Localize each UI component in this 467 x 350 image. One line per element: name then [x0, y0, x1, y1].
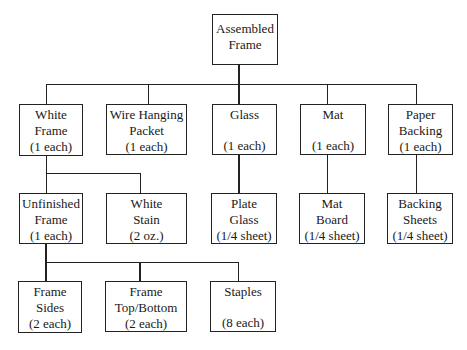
node-line: Assembled: [216, 21, 274, 37]
node-line: Packet: [129, 123, 164, 139]
node-line: Sheets: [403, 212, 437, 228]
node-quantity: (1 each): [30, 139, 72, 155]
connector-unfinished-frame-down: [45, 244, 47, 262]
node-line: Unfinished: [22, 196, 80, 212]
node-white-stain: White Stain (2 oz.): [106, 193, 187, 244]
node-line: Frame: [34, 212, 67, 228]
node-quantity: (1 each): [223, 138, 265, 154]
node-assembled-frame: Assembled Frame: [212, 14, 278, 65]
node-line: Mat: [322, 196, 343, 212]
connector-to-glass: [238, 84, 240, 104]
node-quantity: (2 each): [125, 316, 167, 332]
node-line: Board: [316, 212, 348, 228]
connector-mat-to-mat-board: [327, 155, 329, 193]
node-line: Backing: [399, 123, 442, 139]
node-line: White: [131, 196, 163, 212]
node-frame-sides: Frame Sides (2 each): [18, 281, 82, 333]
node-quantity: (8 each): [222, 315, 264, 331]
node-plate-glass: Plate Glass (1/4 sheet): [211, 193, 277, 244]
connector-to-frame-top-bottom: [139, 262, 141, 282]
connector-unfinished-frame-bus: [45, 262, 239, 264]
node-wire-hanging-packet: Wire Hanging Packet (1 each): [106, 104, 187, 155]
node-paper-backing: Paper Backing (1 each): [388, 104, 453, 155]
connector-level1-bus: [46, 84, 417, 86]
node-line: Glass: [230, 107, 259, 123]
node-line: Frame: [33, 284, 66, 300]
node-line: Sides: [36, 300, 64, 316]
connector-to-mat: [327, 84, 329, 104]
node-frame-top-bottom: Frame Top/Bottom (2 each): [105, 281, 187, 332]
connector-paper-backing-to-backing-sheets: [416, 155, 418, 193]
node-line: Paper: [406, 107, 436, 123]
node-line: Plate: [231, 196, 257, 212]
connector-to-unfinished-frame: [46, 173, 48, 193]
node-line: Frame: [34, 123, 67, 139]
connector-glass-to-plate-glass: [238, 155, 240, 193]
node-quantity: (1 each): [399, 139, 441, 155]
connector-to-paper-backing: [416, 84, 418, 104]
node-quantity: (1 each): [125, 139, 167, 155]
connector-root-down: [238, 64, 240, 84]
node-staples: Staples (8 each): [210, 281, 276, 332]
node-white-frame: White Frame (1 each): [19, 104, 83, 156]
node-unfinished-frame: Unfinished Frame (1 each): [19, 193, 83, 244]
node-quantity: (1/4 sheet): [304, 228, 359, 244]
node-quantity: (1/4 sheet): [392, 228, 447, 244]
node-line: Stain: [133, 212, 160, 228]
node-line: Mat: [323, 107, 344, 123]
node-glass: Glass (1 each): [212, 104, 277, 155]
node-backing-sheets: Backing Sheets (1/4 sheet): [387, 193, 453, 244]
node-line: Frame: [129, 284, 162, 300]
connector-white-frame-bus: [46, 173, 141, 175]
connector-to-frame-sides: [45, 262, 47, 282]
node-mat: Mat (1 each): [300, 104, 366, 155]
connector-white-frame-down: [46, 155, 48, 173]
node-quantity: (1/4 sheet): [216, 228, 271, 244]
connector-to-wire-hanging-packet: [148, 84, 150, 104]
node-line: Wire Hanging: [110, 107, 183, 123]
node-line: White: [35, 107, 67, 123]
node-quantity: (1 each): [30, 228, 72, 244]
node-line: Frame: [228, 37, 261, 53]
node-line: Staples: [224, 284, 262, 300]
node-line: Top/Bottom: [115, 300, 178, 316]
node-quantity: (1 each): [312, 138, 354, 154]
node-quantity: (2 oz.): [130, 228, 164, 244]
connector-to-white-stain: [140, 173, 142, 193]
connector-to-staples: [238, 262, 240, 282]
node-quantity: (2 each): [29, 316, 71, 332]
node-line: Backing: [398, 196, 441, 212]
node-line: Glass: [230, 212, 259, 228]
node-mat-board: Mat Board (1/4 sheet): [299, 193, 365, 244]
connector-to-white-frame: [46, 84, 48, 104]
